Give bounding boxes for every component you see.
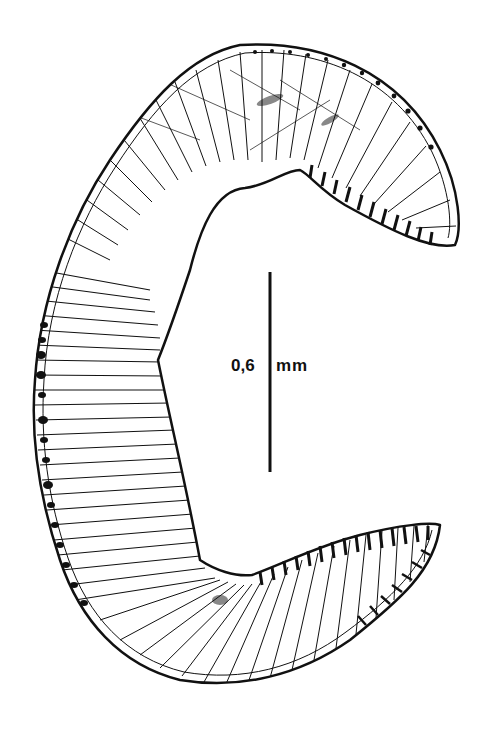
specimen-figure: 0,6 mm <box>0 0 486 734</box>
scale-bar-value: 0,6 <box>231 356 255 376</box>
scale-bar-unit: mm <box>276 356 308 376</box>
